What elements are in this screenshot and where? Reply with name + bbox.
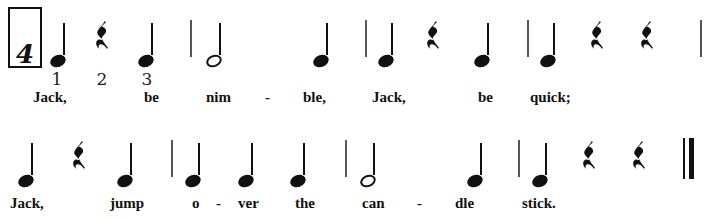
lyric-syllable: nim: [206, 89, 231, 106]
quarter-rest-icon[interactable]: [638, 20, 656, 60]
note-head: [204, 52, 223, 69]
quarter-note[interactable]: [313, 23, 331, 67]
barline: [190, 20, 192, 57]
lyric-syllable: ver: [238, 195, 259, 212]
note-head: [183, 172, 202, 189]
lyric-syllable: the: [295, 195, 315, 212]
lyric-syllable: Jack,: [10, 195, 44, 212]
quarter-note[interactable]: [238, 143, 256, 187]
note-stem: [487, 23, 489, 55]
barline: [700, 20, 702, 57]
half-note[interactable]: [206, 23, 224, 67]
note-head: [465, 172, 484, 189]
note-head: [288, 172, 307, 189]
barline-thick: [689, 138, 694, 179]
quarter-note[interactable]: [117, 143, 135, 187]
lyric-syllable: dle: [455, 195, 474, 212]
note-head: [311, 52, 330, 69]
note-stem: [130, 143, 132, 175]
beat-number: 2: [90, 69, 114, 89]
lyric-syllable: can: [362, 195, 385, 212]
note-stem: [553, 23, 555, 55]
note-stem: [151, 23, 153, 55]
quarter-note[interactable]: [138, 23, 156, 67]
staff-system-2: Jack,jumpo-verthecan-dlestick.: [0, 120, 713, 221]
music-score: 4123Jack,benim-ble,Jack,bequick;Jack,jum…: [0, 0, 713, 221]
note-stem: [219, 23, 221, 55]
note-head: [48, 52, 67, 69]
quarter-rest-icon[interactable]: [93, 20, 111, 60]
note-stem: [373, 143, 375, 175]
barline: [518, 140, 520, 177]
half-note[interactable]: [360, 143, 378, 187]
time-signature-box[interactable]: 4: [8, 7, 42, 68]
lyric-syllable: Jack,: [33, 89, 67, 106]
lyric-hyphen: -: [265, 89, 270, 106]
note-head: [538, 52, 557, 69]
note-head: [136, 52, 155, 69]
quarter-note[interactable]: [18, 143, 36, 187]
barline: [527, 20, 529, 57]
barline: [365, 20, 367, 57]
quarter-note[interactable]: [467, 143, 485, 187]
note-stem: [326, 23, 328, 55]
quarter-note[interactable]: [378, 23, 396, 67]
note-head: [236, 172, 255, 189]
barline: [171, 140, 173, 177]
lyric-hyphen: -: [216, 195, 221, 212]
lyric-syllable: Jack,: [372, 89, 406, 106]
note-stem: [251, 143, 253, 175]
time-signature-value: 4: [10, 39, 40, 69]
lyric-syllable: stick.: [522, 195, 556, 212]
quarter-rest-icon[interactable]: [588, 20, 606, 60]
note-stem: [303, 143, 305, 175]
note-stem: [391, 23, 393, 55]
quarter-note[interactable]: [290, 143, 308, 187]
note-head: [530, 172, 549, 189]
note-head: [16, 172, 35, 189]
quarter-rest-icon[interactable]: [424, 20, 442, 60]
beat-number: 3: [135, 69, 159, 89]
note-stem: [63, 23, 65, 55]
barline: [345, 140, 347, 177]
note-stem: [480, 143, 482, 175]
note-stem: [198, 143, 200, 175]
beat-number: 1: [45, 69, 69, 89]
quarter-note[interactable]: [540, 23, 558, 67]
note-stem: [545, 143, 547, 175]
quarter-rest-icon[interactable]: [580, 140, 598, 180]
quarter-note[interactable]: [185, 143, 203, 187]
note-head: [472, 52, 491, 69]
lyric-syllable: be: [144, 89, 159, 106]
quarter-note[interactable]: [474, 23, 492, 67]
lyric-hyphen: -: [417, 195, 422, 212]
final-double-barline: [683, 138, 695, 179]
lyric-syllable: o: [192, 195, 200, 212]
note-stem: [31, 143, 33, 175]
quarter-note[interactable]: [50, 23, 68, 67]
lyric-syllable: quick;: [530, 89, 571, 106]
quarter-rest-icon[interactable]: [630, 140, 648, 180]
staff-system-1: 4123Jack,benim-ble,Jack,bequick;: [0, 0, 713, 120]
lyric-syllable: be: [478, 89, 493, 106]
quarter-note[interactable]: [532, 143, 550, 187]
lyric-syllable: jump: [110, 195, 144, 212]
lyric-syllable: ble,: [303, 89, 326, 106]
note-head: [358, 172, 377, 189]
note-head: [115, 172, 134, 189]
barline-thin: [683, 138, 685, 179]
note-head: [376, 52, 395, 69]
quarter-rest-icon[interactable]: [70, 140, 88, 180]
